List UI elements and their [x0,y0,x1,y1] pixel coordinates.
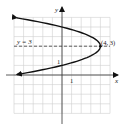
x-tick-label: 1 [70,77,73,84]
x-axis-label: x [114,77,119,85]
symmetry-label: y = 3 [16,38,32,46]
vertex-label: (4, 3) [101,39,115,47]
parabola-graph: y x 1 1 (4, 3) y = 3 [0,0,125,127]
y-tick-label: 1 [57,58,60,65]
y-axis-label: y [54,6,59,14]
